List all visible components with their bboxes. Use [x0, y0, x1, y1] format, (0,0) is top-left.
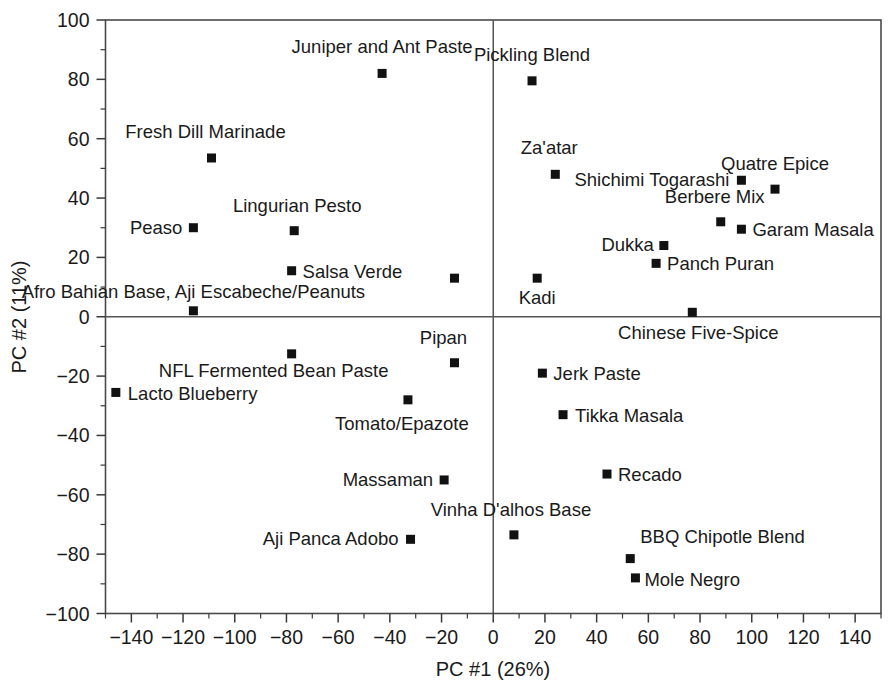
- data-point-label: Recado: [618, 464, 682, 485]
- data-point-marker[interactable]: [287, 349, 296, 358]
- data-point-label: Fresh Dill Marinade: [125, 121, 285, 142]
- data-point-marker[interactable]: [207, 153, 216, 162]
- data-point-label: Dukka: [601, 234, 654, 255]
- point-labels-layer: Juniper and Ant PasteFresh Dill Marinade…: [22, 36, 875, 589]
- scatter-plot-figure: −140−120−100−80−60−40−200204060801001201…: [0, 0, 890, 689]
- data-point-label: Tomato/Epazote: [335, 413, 469, 434]
- y-tick-label: −20: [56, 365, 89, 387]
- y-tick-label: 20: [68, 246, 90, 268]
- x-tick-label: 60: [637, 626, 659, 648]
- x-tick-label: −20: [425, 626, 458, 648]
- data-point-label: Mole Negro: [644, 569, 740, 590]
- data-point-label: Lingurian Pesto: [233, 195, 362, 216]
- y-tick-label: 100: [57, 9, 90, 31]
- data-point-marker[interactable]: [538, 369, 547, 378]
- y-tick-label: 0: [79, 306, 90, 328]
- x-tick-label: −40: [373, 626, 406, 648]
- data-point-label: Garam Masala: [752, 219, 874, 240]
- y-tick-label: −60: [56, 484, 89, 506]
- data-point-label: Panch Puran: [667, 253, 774, 274]
- data-point-marker[interactable]: [440, 475, 449, 484]
- data-point-marker[interactable]: [551, 170, 560, 179]
- data-point-marker[interactable]: [533, 274, 542, 283]
- y-tick-label: 80: [68, 68, 90, 90]
- x-tick-label: 80: [689, 626, 711, 648]
- data-point-label: Kadi: [519, 287, 556, 308]
- data-point-marker[interactable]: [528, 76, 537, 85]
- data-point-marker[interactable]: [559, 410, 568, 419]
- data-point-label: Lacto Blueberry: [128, 383, 258, 404]
- data-point-label: NFL Fermented Bean Paste: [159, 360, 389, 381]
- zero-lines: [106, 20, 882, 614]
- data-point-label: Berbere Mix: [665, 186, 765, 207]
- data-point-marker[interactable]: [716, 217, 725, 226]
- data-point-label: Salsa Verde: [303, 261, 403, 282]
- data-point-label: Juniper and Ant Paste: [292, 36, 473, 57]
- y-tick-label: 60: [68, 128, 90, 150]
- data-point-marker[interactable]: [450, 274, 459, 283]
- pca-scatter-plot: −140−120−100−80−60−40−200204060801001201…: [0, 0, 890, 689]
- data-point-marker[interactable]: [737, 176, 746, 185]
- data-point-label: Pickling Blend: [474, 44, 590, 65]
- data-point-marker[interactable]: [403, 395, 412, 404]
- data-point-label: Peaso: [130, 217, 182, 238]
- data-point-marker[interactable]: [509, 530, 518, 539]
- x-tick-label: −60: [322, 626, 355, 648]
- data-point-marker[interactable]: [659, 241, 668, 250]
- data-point-marker[interactable]: [290, 226, 299, 235]
- data-point-marker[interactable]: [189, 223, 198, 232]
- y-tick-label: −100: [46, 603, 90, 625]
- x-tick-label: −100: [213, 626, 257, 648]
- y-tick-label: −40: [56, 424, 89, 446]
- data-point-marker[interactable]: [189, 306, 198, 315]
- data-point-label: Za'atar: [521, 137, 578, 158]
- x-tick-label: −140: [109, 626, 153, 648]
- data-point-label: Jerk Paste: [553, 363, 640, 384]
- x-tick-label: −80: [270, 626, 303, 648]
- data-point-marker[interactable]: [652, 259, 661, 268]
- data-point-marker[interactable]: [631, 573, 640, 582]
- data-point-marker[interactable]: [406, 535, 415, 544]
- data-point-label: Chinese Five-Spice: [618, 322, 778, 343]
- x-tick-label: 20: [534, 626, 556, 648]
- data-point-marker[interactable]: [688, 308, 697, 317]
- data-point-marker[interactable]: [626, 554, 635, 563]
- x-axis-title: PC #1 (26%): [436, 658, 551, 680]
- data-point-marker[interactable]: [287, 266, 296, 275]
- data-point-label: Massaman: [343, 469, 433, 490]
- data-point-label: Vinha D'alhos Base: [431, 499, 592, 520]
- x-tick-label: −120: [161, 626, 205, 648]
- data-point-marker[interactable]: [450, 358, 459, 367]
- y-tick-label: 40: [68, 187, 90, 209]
- data-point-label: Tikka Masala: [575, 405, 684, 426]
- data-point-marker[interactable]: [602, 470, 611, 479]
- data-point-marker[interactable]: [771, 185, 780, 194]
- data-point-label: Pipan: [420, 327, 467, 348]
- y-tick-label: −80: [56, 543, 89, 565]
- data-point-marker[interactable]: [737, 225, 746, 234]
- x-tick-label: 0: [488, 626, 499, 648]
- data-point-label: Quatre Epice: [721, 153, 829, 174]
- data-point-marker[interactable]: [378, 69, 387, 78]
- data-point-label: BBQ Chipotle Blend: [640, 526, 805, 547]
- data-point-label: Afro Bahian Base, Aji Escabeche/Peanuts: [22, 281, 366, 302]
- x-tick-label: 40: [586, 626, 608, 648]
- x-tick-label: 140: [839, 626, 872, 648]
- y-axis-title: PC #2 (11%): [8, 260, 30, 373]
- x-tick-label: 100: [735, 626, 768, 648]
- data-point-marker[interactable]: [111, 388, 120, 397]
- x-tick-label: 120: [787, 626, 820, 648]
- data-point-label: Aji Panca Adobo: [263, 528, 399, 549]
